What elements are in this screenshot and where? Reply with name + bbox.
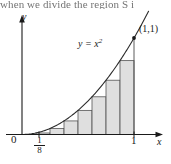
curve-equation-base: y = x xyxy=(78,38,99,49)
curve-equation-label: y = x2 xyxy=(78,38,102,49)
riemann-rectangle xyxy=(78,110,92,134)
point-marker-1-1 xyxy=(132,36,136,40)
riemann-rectangles xyxy=(36,61,134,135)
riemann-rectangle xyxy=(106,80,120,134)
x-tick-label-one-eighth: 1 8 xyxy=(34,136,45,155)
fraction-numerator: 1 xyxy=(34,136,45,145)
point-label-1-1: (1,1) xyxy=(139,24,158,34)
riemann-rectangle xyxy=(50,128,64,134)
origin-label: 0 xyxy=(11,134,17,145)
y-axis-label: y xyxy=(22,12,26,22)
riemann-rectangle xyxy=(92,97,106,135)
x-axis-label: x xyxy=(157,137,161,147)
fraction-denominator: 8 xyxy=(34,146,45,155)
x-tick-label-one: 1 xyxy=(131,135,137,146)
curve-equation-exponent: 2 xyxy=(99,37,103,45)
riemann-rectangle xyxy=(120,61,134,135)
riemann-rectangle xyxy=(64,121,78,135)
